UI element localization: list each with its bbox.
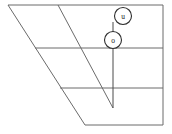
node-u[interactable]: u xyxy=(115,8,132,25)
line-diagram: u o xyxy=(0,0,172,134)
node-o-label: o xyxy=(111,36,115,45)
figure-canvas: u o xyxy=(0,0,172,134)
node-u-label: u xyxy=(121,12,125,21)
inner-diagonal-line xyxy=(58,5,113,108)
node-o[interactable]: o xyxy=(105,32,122,49)
left-diagonal-line xyxy=(8,5,85,125)
